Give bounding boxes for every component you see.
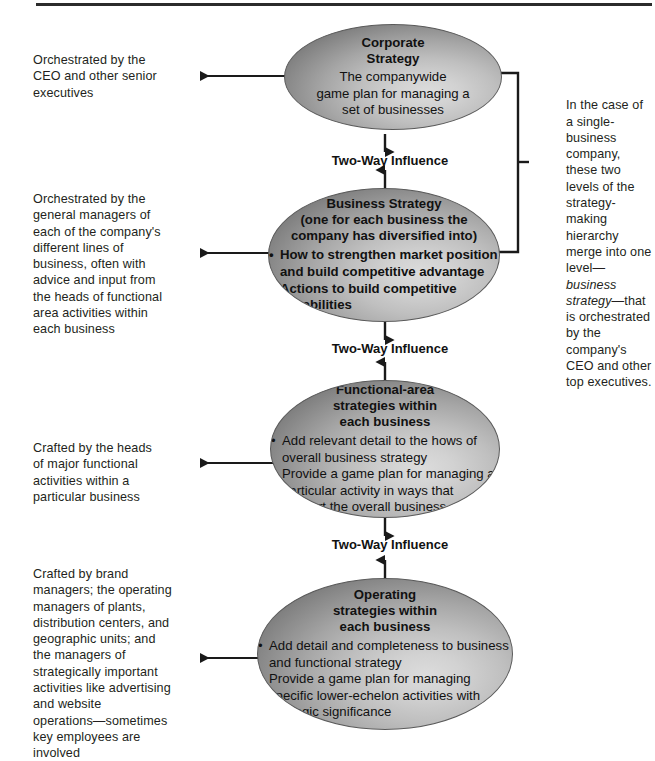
ellipse-corporate-strategy: Corporate Strategy The companywide game … xyxy=(284,24,502,130)
ellipse-business-strategy: Business Strategy (one for each business… xyxy=(268,188,500,322)
influence-label-2: Two-Way Influence xyxy=(290,341,490,356)
list-item: Add relevant detail to the hows of overa… xyxy=(271,433,499,466)
list-item: How to strengthen market position and bu… xyxy=(269,247,499,280)
ellipse-functional-area-strategy: Functional-area strategies within each b… xyxy=(270,380,500,518)
ellipse-title-operating: Operating strategies within each busines… xyxy=(333,587,437,635)
influence-label-1: Two-Way Influence xyxy=(290,153,490,168)
list-item: Provide a game plan for managing a parti… xyxy=(271,466,499,516)
ellipse-operating-strategy: Operating strategies within each busines… xyxy=(257,578,513,730)
ellipse-title-business: Business Strategy xyxy=(326,196,441,212)
ellipse-bullets-functional: Add relevant detail to the hows of overa… xyxy=(271,433,499,516)
side-note-merge-bracket: In the case of a single-business company… xyxy=(566,81,652,391)
bracket-note-before: In the case of a single-business company… xyxy=(566,98,651,275)
list-item: Provide a game plan for managing specifi… xyxy=(258,671,512,721)
bracket-note-italic: business strategy xyxy=(566,278,617,308)
ellipse-body-corporate: The companywide game plan for managing a… xyxy=(316,69,469,119)
ellipse-title-corporate: Corporate Strategy xyxy=(361,35,424,67)
merge-bracket xyxy=(497,73,529,252)
ellipse-bullets-operating: Add detail and completeness to business … xyxy=(258,638,512,721)
bracket-note-after: —that is orchestrated by the company's C… xyxy=(566,294,652,389)
list-item: Actions to build competitive capabilitie… xyxy=(269,281,499,314)
diagram-canvas: Corporate Strategy The companywide game … xyxy=(0,0,655,761)
side-note-functional: Crafted by the heads of major functional… xyxy=(33,440,205,505)
influence-label-3: Two-Way Influence xyxy=(290,537,490,552)
list-item: Add detail and completeness to business … xyxy=(258,638,512,671)
ellipse-title-functional: Functional-area strategies within each b… xyxy=(333,382,437,430)
side-note-corporate: Orchestrated by the CEO and other senior… xyxy=(33,52,205,101)
ellipse-subtitle-business: (one for each business the company has d… xyxy=(291,212,477,244)
side-note-business: Orchestrated by the general managers of … xyxy=(33,191,205,338)
top-divider-rule xyxy=(36,3,652,6)
ellipse-bullets-business: How to strengthen market position and bu… xyxy=(269,247,499,313)
side-note-operating: Crafted by brand managers; the operating… xyxy=(33,566,205,761)
